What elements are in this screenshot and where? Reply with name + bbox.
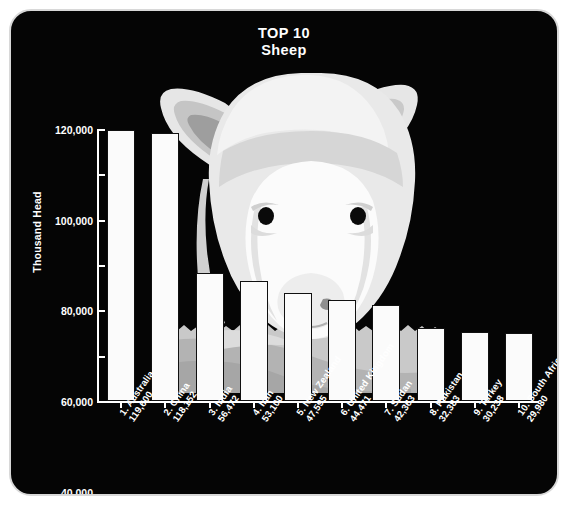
y-tick-mark: 40,000: [99, 310, 105, 312]
poster-title-main: TOP 10: [11, 25, 557, 42]
y-tick-mark: 0: [99, 401, 105, 403]
chart-frame: TOP 10 Sheep TOP 10 Sheep Thousand Head …: [9, 9, 559, 496]
y-tick-label: 80,000: [61, 305, 93, 317]
y-tick-label: 40,000: [61, 487, 93, 496]
bar: [240, 281, 268, 401]
y-tick-mark: 20,000: [99, 356, 105, 358]
bar: [196, 273, 224, 401]
y-tick-mark: 60,000: [99, 265, 105, 267]
y-tick-mark: 80,000: [99, 220, 105, 222]
poster-title-sub: Sheep: [11, 42, 557, 59]
chart-title-block: TOP 10 Sheep TOP 10 Sheep: [11, 25, 557, 59]
y-tick-mark: 120,000: [99, 129, 105, 131]
plot-area: 020,00040,00060,00080,000100,000120,000 …: [97, 129, 539, 403]
y-tick-label: 60,000: [61, 396, 93, 408]
y-tick-label: 120,000: [55, 124, 93, 136]
y-tick-mark: 100,000: [99, 174, 105, 176]
y-tick-label: 100,000: [55, 215, 93, 227]
y-axis-title: Thousand Head: [31, 172, 43, 292]
bar: [107, 130, 135, 401]
bar: [284, 293, 312, 401]
poster-root: TOP 10 Sheep TOP 10 Sheep Thousand Head …: [0, 0, 573, 517]
bar: [151, 133, 179, 401]
